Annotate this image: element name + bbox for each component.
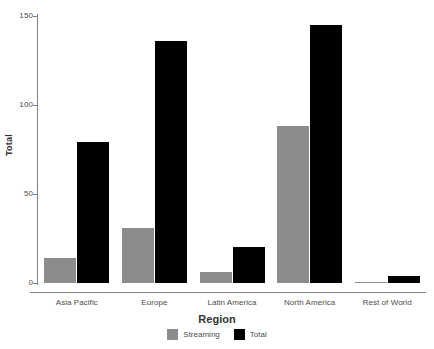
y-tick-label: 0	[5, 279, 33, 287]
bar-streaming-latin-america	[200, 272, 232, 283]
bar-total-rest-of-world	[388, 276, 420, 283]
x-tick-label: North America	[265, 298, 355, 307]
x-axis-title: Region	[0, 313, 434, 325]
bar-total-latin-america	[233, 247, 265, 283]
bar-chart: 050100150 Total Asia PacificEuropeLatin …	[0, 0, 434, 349]
y-tick-label: 50	[5, 190, 33, 198]
x-tick-label: Europe	[109, 298, 199, 307]
bar-streaming-asia-pacific	[44, 258, 76, 283]
y-tick-mark	[33, 194, 37, 195]
y-tick-mark	[33, 16, 37, 17]
x-tick-label: Latin America	[187, 298, 277, 307]
y-tick: 150	[0, 12, 33, 20]
y-tick-label: 100	[5, 101, 33, 109]
y-tick-mark	[33, 105, 37, 106]
y-tick: 0	[0, 279, 33, 287]
y-tick-label: 150	[5, 12, 33, 20]
legend-swatch-icon	[167, 329, 178, 340]
bar-streaming-rest-of-world	[355, 282, 387, 283]
legend-label: Streaming	[183, 330, 219, 339]
bar-streaming-europe	[122, 228, 154, 283]
y-tick: 100	[0, 101, 33, 109]
chart-legend: StreamingTotal	[0, 329, 434, 340]
y-tick-mark	[33, 283, 37, 284]
x-tick-label: Asia Pacific	[32, 298, 122, 307]
legend-item-streaming[interactable]: Streaming	[167, 329, 219, 340]
x-axis-line	[30, 292, 426, 293]
bars-layer	[38, 0, 426, 283]
bar-total-asia-pacific	[77, 142, 109, 283]
bar-total-europe	[155, 41, 187, 283]
x-tick-label: Rest of World	[342, 298, 432, 307]
legend-label: Total	[250, 330, 267, 339]
bar-streaming-north-america	[277, 126, 309, 283]
y-axis-title: Total	[4, 115, 14, 175]
bar-total-north-america	[310, 25, 342, 283]
legend-item-total[interactable]: Total	[234, 329, 267, 340]
y-tick: 50	[0, 190, 33, 198]
legend-swatch-icon	[234, 329, 245, 340]
